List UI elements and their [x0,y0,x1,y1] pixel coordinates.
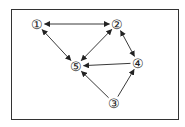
node-5: ⑤ [70,59,82,74]
node-2: ② [111,17,123,32]
graph-diagram: ①②③④⑤ [0,0,185,127]
node-3: ③ [108,96,120,111]
node-1: ① [31,17,43,32]
edge-3-to-5 [81,71,108,98]
edge-3-to-4 [118,69,134,96]
edge-1-to-5-bidirectional [42,29,71,60]
edges-group [42,24,134,98]
node-4: ④ [132,56,144,71]
edge-2-to-5-bidirectional [81,29,112,60]
edge-2-to-4-bidirectional [121,31,135,57]
edge-4-to-5 [83,63,130,65]
